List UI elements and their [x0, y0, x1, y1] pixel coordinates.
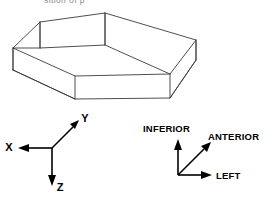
xyz-coordinate-frame: X Y Z — [5, 112, 89, 193]
figure-root: sition of p X Y — [0, 0, 278, 205]
inferior-axis-arrowhead — [174, 139, 182, 150]
z-axis-label: Z — [57, 181, 64, 193]
figure-canvas: X Y Z INFERIOR ANTERIOR LEFT — [0, 0, 278, 205]
anterior-axis-label: ANTERIOR — [208, 131, 259, 142]
anterior-axis-line — [178, 149, 204, 175]
y-axis-label: Y — [81, 112, 89, 124]
y-axis-line — [52, 127, 73, 148]
left-axis-arrowhead — [201, 171, 212, 179]
z-axis-arrowhead — [48, 175, 56, 186]
anatomical-orientation-frame: INFERIOR ANTERIOR LEFT — [143, 123, 259, 181]
left-axis-label: LEFT — [216, 170, 241, 181]
hexagonal-prism — [13, 13, 196, 99]
inferior-axis-label: INFERIOR — [143, 123, 190, 134]
x-axis-label: X — [5, 141, 13, 153]
x-axis-arrowhead — [18, 144, 29, 152]
